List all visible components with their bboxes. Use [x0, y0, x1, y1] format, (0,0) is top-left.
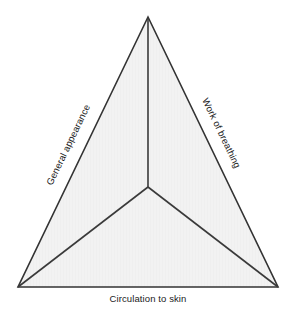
- pediatric-assessment-triangle-svg: General appearance Work of breathing Cir…: [0, 0, 296, 312]
- label-circulation-to-skin: Circulation to skin: [110, 293, 187, 304]
- diagram-canvas: General appearance Work of breathing Cir…: [0, 0, 296, 312]
